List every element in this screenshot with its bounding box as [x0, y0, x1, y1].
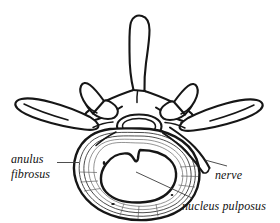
spinous-process [116, 16, 163, 103]
label-anulus-line1: anulus [11, 152, 50, 167]
vertebra-illustration [0, 0, 280, 223]
label-nucleus-pulposus: nucleus pulposus [182, 199, 266, 214]
nucleus-pulposus [101, 150, 176, 203]
label-anulus-line2: fibrosus [11, 167, 50, 182]
vertebra-figure: anulus fibrosus nerve nucleus pulposus [0, 0, 280, 223]
label-anulus-fibrosus: anulus fibrosus [11, 152, 50, 182]
label-nerve: nerve [215, 168, 242, 183]
